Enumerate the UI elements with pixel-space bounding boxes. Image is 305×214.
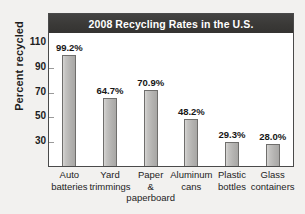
- bar[interactable]: [184, 119, 198, 166]
- y-tick-label: 90: [22, 62, 46, 72]
- y-axis-tick-mark: [49, 117, 54, 118]
- y-tick-label: 50: [22, 111, 46, 121]
- bar[interactable]: [103, 98, 117, 166]
- plot-area: 2008 Recycling Rates in the U.S. 99.2%64…: [48, 13, 294, 167]
- y-axis-tick-mark: [49, 142, 54, 143]
- y-axis-tick-mark: [49, 93, 54, 94]
- bar[interactable]: [62, 55, 76, 166]
- plot-canvas: 99.2%64.7%70.9%48.2%29.3%28.0%: [49, 33, 293, 166]
- bar-value-label: 48.2%: [165, 106, 217, 117]
- bar[interactable]: [225, 142, 239, 166]
- bar-value-label: 99.2%: [43, 42, 95, 53]
- y-tick-label: 30: [22, 136, 46, 146]
- y-axis-tick-mark: [49, 68, 54, 69]
- y-tick-label: 70: [22, 87, 46, 97]
- chart-title-bar: 2008 Recycling Rates in the U.S.: [49, 14, 293, 33]
- x-category-label: Glass containers: [245, 169, 301, 192]
- bar-value-label: 28.0%: [247, 131, 299, 142]
- x-axis-category-labels: Auto batteriesYard trimmingsPaper & pape…: [48, 169, 294, 214]
- bar[interactable]: [144, 90, 158, 166]
- bar[interactable]: [266, 144, 280, 166]
- chart-title: 2008 Recycling Rates in the U.S.: [49, 18, 293, 30]
- bar-value-label: 70.9%: [125, 77, 177, 88]
- recycling-rates-bar-chart: Percent recycled 11090705030 2008 Recycl…: [0, 0, 305, 214]
